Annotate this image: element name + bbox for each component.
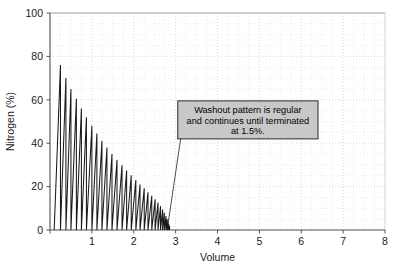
y-tick-label: 80 — [31, 50, 43, 62]
chart-figure: 12345678Volume020406080100Nitrogen (%)Wa… — [0, 0, 394, 267]
annotation-box: Washout pattern is regularand continues … — [178, 101, 318, 139]
annotation-line: Washout pattern is regular — [194, 105, 301, 115]
x-tick-label: 1 — [89, 235, 95, 247]
washout-trace — [54, 65, 169, 230]
y-tick-label: 40 — [31, 137, 43, 149]
x-tick-label: 7 — [340, 235, 346, 247]
x-tick-label: 3 — [173, 235, 179, 247]
x-tick-label: 5 — [256, 235, 262, 247]
x-tick-label: 2 — [131, 235, 137, 247]
annotation-leader-line — [168, 139, 181, 224]
y-tick-label: 0 — [37, 224, 43, 236]
y-axis: 020406080100Nitrogen (%) — [4, 7, 50, 236]
y-tick-label: 100 — [25, 7, 43, 19]
x-tick-label: 4 — [215, 235, 221, 247]
nitrogen-washout-chart: 12345678Volume020406080100Nitrogen (%)Wa… — [0, 0, 394, 267]
y-tick-label: 20 — [31, 180, 43, 192]
x-axis: 12345678Volume — [50, 230, 388, 263]
x-tick-label: 6 — [298, 235, 304, 247]
x-tick-label: 8 — [382, 235, 388, 247]
annotation-line: and continues until terminated — [187, 116, 310, 126]
x-axis-label: Volume — [200, 251, 235, 263]
y-axis-label: Nitrogen (%) — [4, 92, 16, 151]
annotation-line: at 1.5%. — [231, 126, 265, 136]
y-tick-label: 60 — [31, 94, 43, 106]
